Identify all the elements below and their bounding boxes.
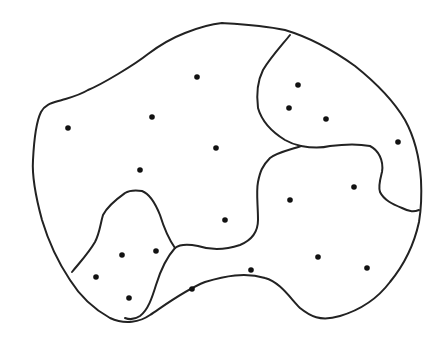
point-marker bbox=[119, 252, 125, 258]
diagram-canvas bbox=[0, 0, 443, 339]
point-marker bbox=[189, 286, 195, 292]
point-marker bbox=[149, 114, 155, 120]
point-marker bbox=[222, 217, 228, 223]
point-marker bbox=[213, 145, 219, 151]
point-marker bbox=[323, 116, 329, 122]
point-marker bbox=[295, 82, 301, 88]
point-marker bbox=[315, 254, 321, 260]
divider-left-bump bbox=[72, 190, 175, 272]
divider-middle bbox=[175, 146, 301, 249]
point-marker bbox=[126, 295, 132, 301]
point-marker bbox=[65, 125, 71, 131]
point-marker bbox=[137, 167, 143, 173]
point-marker bbox=[194, 74, 200, 80]
divider-bottom-left bbox=[125, 248, 175, 319]
point-marker bbox=[351, 184, 357, 190]
divider-top-right bbox=[257, 35, 301, 146]
outer-boundary bbox=[33, 23, 422, 322]
point-marker bbox=[395, 139, 401, 145]
point-marker bbox=[153, 248, 159, 254]
region-map bbox=[0, 0, 443, 339]
divider-right-lobe bbox=[301, 145, 419, 212]
point-marker bbox=[364, 265, 370, 271]
point-marker bbox=[248, 267, 254, 273]
point-marker bbox=[286, 105, 292, 111]
point-marker bbox=[93, 274, 99, 280]
point-marker bbox=[287, 197, 293, 203]
dot-group bbox=[65, 74, 401, 301]
